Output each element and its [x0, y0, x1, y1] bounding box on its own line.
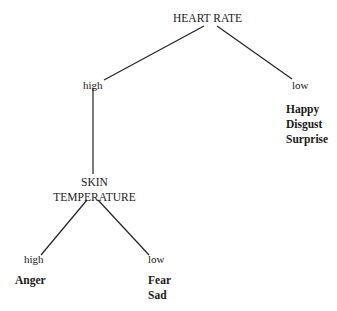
edge-label-skin-low: low	[148, 253, 165, 266]
edge-skin-low	[98, 200, 149, 255]
outcome-sad: Sad	[148, 288, 171, 303]
edge-label-heart-high: high	[83, 79, 103, 92]
edge-skin-high	[41, 200, 87, 255]
node-heart-rate-label: HEART RATE	[173, 12, 242, 24]
node-skin-temperature: SKIN TEMPERATURE	[52, 175, 137, 205]
outcome-happy: Happy	[286, 102, 328, 117]
outcome-anger: Anger	[15, 273, 46, 288]
outcomes-skin-low: Fear Sad	[148, 273, 171, 303]
outcomes-skin-high: Anger	[15, 273, 46, 288]
node-heart-rate: HEART RATE	[173, 11, 242, 26]
node-skin-temperature-line1: SKIN	[52, 175, 137, 190]
tree-edges	[0, 0, 337, 311]
node-skin-temperature-line2: TEMPERATURE	[52, 190, 137, 205]
outcome-surprise: Surprise	[286, 132, 328, 147]
edge-heart-high	[104, 26, 204, 80]
outcomes-heart-low: Happy Disgust Surprise	[286, 102, 328, 147]
outcome-disgust: Disgust	[286, 117, 328, 132]
edge-label-skin-high: high	[24, 253, 44, 266]
edge-heart-low	[217, 26, 292, 79]
edge-label-heart-low: low	[292, 79, 309, 92]
outcome-fear: Fear	[148, 273, 171, 288]
